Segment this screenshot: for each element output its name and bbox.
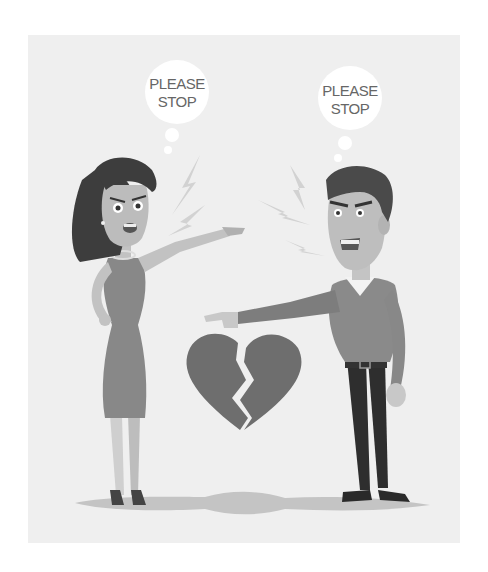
svg-text:STOP: STOP [158,93,197,110]
svg-text:PLEASE: PLEASE [149,75,205,92]
left-thought-bubble: PLEASE STOP [145,60,209,154]
broken-heart-icon [187,334,302,430]
man-figure [204,166,410,502]
illustration: PLEASE STOP PLEASE STOP [0,0,488,572]
ground-shadow [75,492,430,514]
right-thought-bubble: PLEASE STOP [318,66,382,162]
svg-text:STOP: STOP [331,100,370,117]
svg-text:PLEASE: PLEASE [322,82,378,99]
woman-figure [72,158,245,505]
